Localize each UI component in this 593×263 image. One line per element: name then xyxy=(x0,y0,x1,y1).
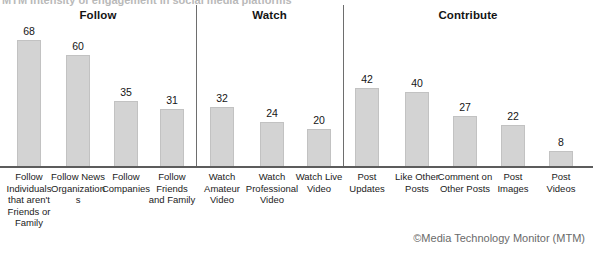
category-label: Post Videos xyxy=(536,171,586,194)
bar xyxy=(66,55,90,166)
plot-area: 68603531322420424027228 xyxy=(0,0,593,166)
bar xyxy=(17,40,41,166)
bar-value-label: 35 xyxy=(106,86,146,98)
bar xyxy=(355,88,379,166)
credit-text: ©Media Technology Monitor (MTM) xyxy=(413,232,585,244)
category-label: Comment on Other Posts xyxy=(437,171,493,194)
bar-value-label: 40 xyxy=(397,77,437,89)
bar-value-label: 60 xyxy=(58,40,98,52)
bar-value-label: 31 xyxy=(152,94,192,106)
category-label: Post Updates xyxy=(342,171,392,194)
bar xyxy=(405,92,429,166)
bar-value-label: 32 xyxy=(202,92,242,104)
bar xyxy=(210,107,234,166)
category-label: Follow Companies xyxy=(98,171,154,194)
bar-value-label: 42 xyxy=(347,73,387,85)
bar xyxy=(453,116,477,166)
bar-value-label: 8 xyxy=(541,136,581,148)
category-label: Watch Live Video xyxy=(291,171,347,194)
bar xyxy=(501,125,525,166)
axis-baseline xyxy=(0,166,593,168)
bar xyxy=(160,109,184,166)
bar-value-label: 68 xyxy=(9,25,49,37)
category-label: Follow Friends and Family xyxy=(147,171,197,206)
bar xyxy=(114,101,138,166)
category-label: Post Images xyxy=(488,171,538,194)
bar xyxy=(260,122,284,166)
bar-value-label: 22 xyxy=(493,110,533,122)
bar xyxy=(307,129,331,166)
bar-value-label: 24 xyxy=(252,107,292,119)
category-label: Watch Amateur Video xyxy=(196,171,248,206)
category-label: Follow Individuals that aren't Friends o… xyxy=(1,171,57,229)
bar-value-label: 27 xyxy=(445,101,485,113)
chart-container: MTM Intensity of engagement in social me… xyxy=(0,0,593,263)
bar-value-label: 20 xyxy=(299,114,339,126)
bar xyxy=(549,151,573,166)
